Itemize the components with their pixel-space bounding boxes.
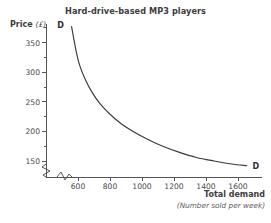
x-axis-tick-label: 1000	[132, 182, 151, 191]
y-axis-tick-label: 350	[26, 38, 41, 47]
chart-container: Hard-drive-based MP3 players Price (£) T…	[0, 0, 271, 223]
x-axis-tick-label: 600	[71, 182, 86, 191]
demand-curve	[72, 27, 247, 166]
x-axis-tick-label: 1400	[196, 182, 215, 191]
y-axis-tick-label: 150	[26, 157, 41, 166]
y-axis-tick-label: 300	[26, 68, 41, 77]
x-axis-tick-label: 1600	[228, 182, 247, 191]
y-axis-tick-label: 250	[26, 97, 41, 106]
demand-curve-group: DD	[57, 21, 259, 171]
curve-label-start: D	[57, 21, 64, 30]
x-axis-break-icon	[57, 172, 72, 180]
y-axis-tick-label: 200	[26, 127, 41, 136]
ticks-group	[42, 28, 238, 181]
x-axis-tick-label: 1200	[164, 182, 183, 191]
x-axis-tick-label: 800	[103, 182, 118, 191]
curve-label-end: D	[252, 162, 259, 171]
